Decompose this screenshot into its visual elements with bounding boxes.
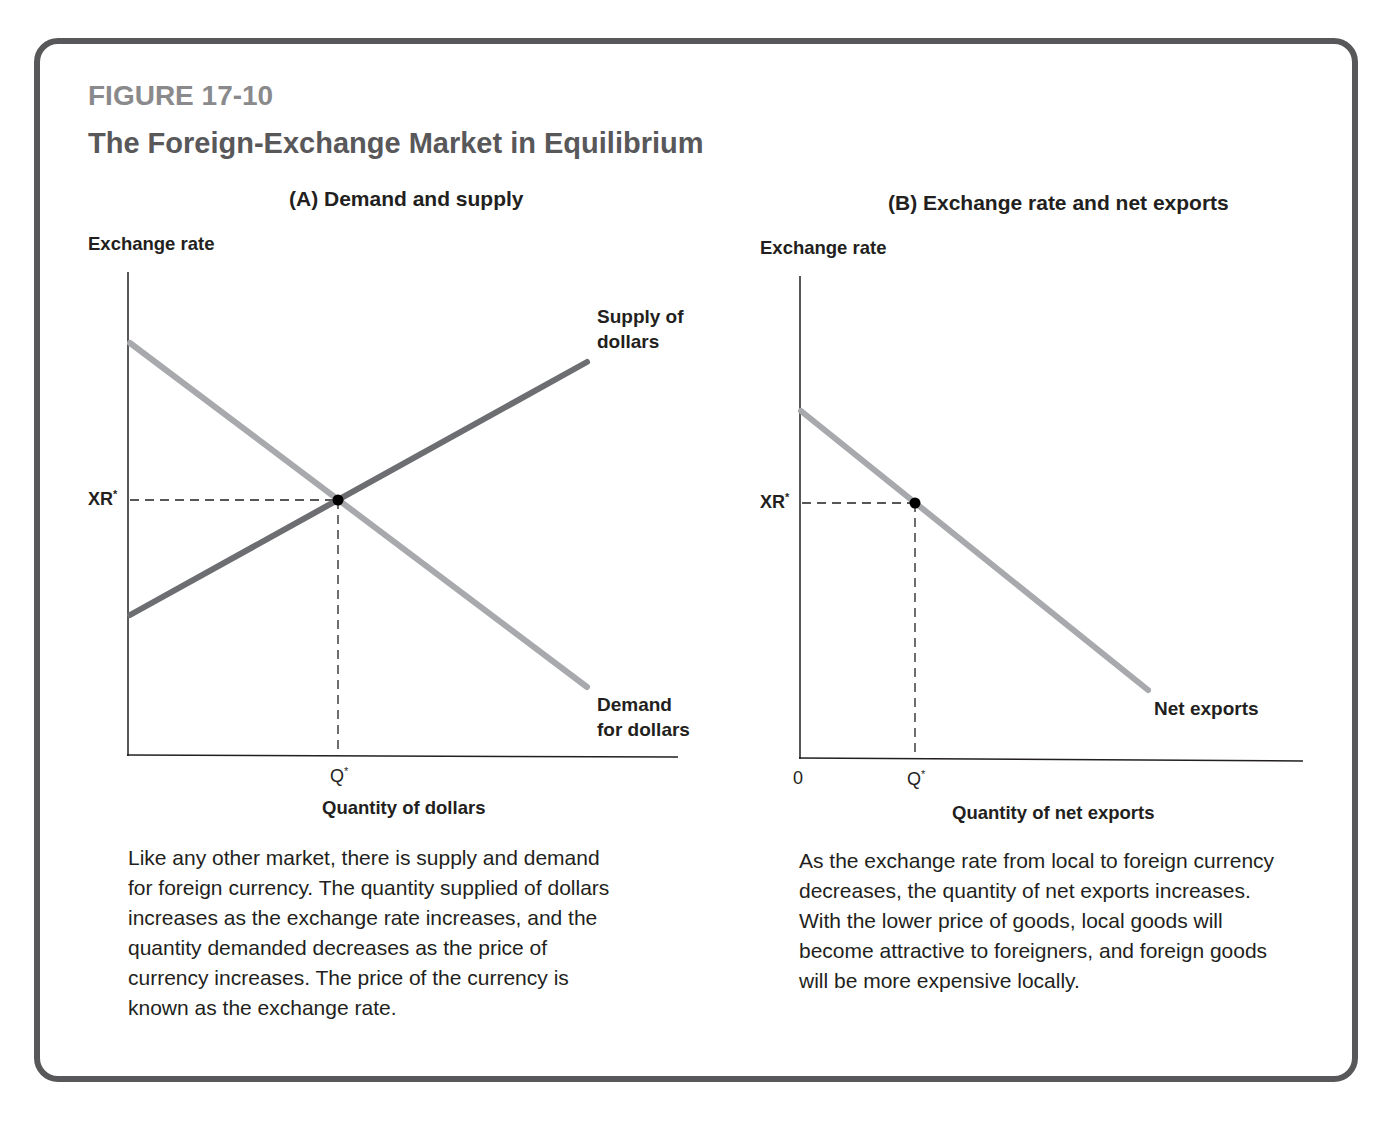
panel-a-x-axis [127, 755, 678, 757]
panel-b-x-axis [799, 758, 1303, 761]
supply-curve [130, 362, 587, 615]
charts-svg [0, 0, 1386, 1121]
panel-b-chart [799, 276, 1303, 761]
panel-a-equilibrium-point [333, 495, 344, 506]
panel-a-chart [127, 272, 678, 757]
net-exports-curve [801, 411, 1148, 690]
demand-curve [130, 343, 587, 687]
panel-b-equilibrium-point [910, 498, 921, 509]
